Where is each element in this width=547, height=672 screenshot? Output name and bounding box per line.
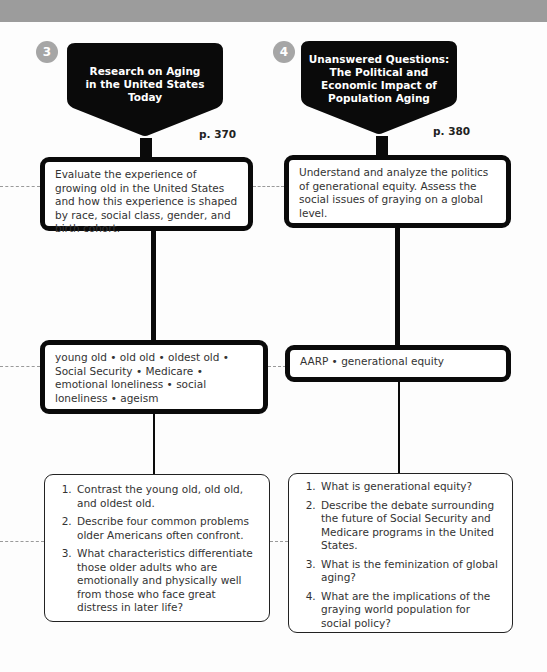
question-item: What characteristics differentiate those…	[75, 547, 259, 615]
dashed-connector	[0, 541, 44, 542]
dashed-connector	[0, 186, 40, 187]
review-questions-box: Contrast the young old, old old, and old…	[44, 474, 270, 622]
section-title-banner: Unanswered Questions: The Political and …	[301, 41, 457, 135]
connector-line	[398, 381, 400, 474]
review-questions-list: What is generational equity? Describe th…	[297, 480, 502, 630]
review-questions-list: Contrast the young old, old old, and old…	[53, 483, 259, 615]
key-terms-box: AARP • generational equity	[285, 345, 511, 382]
objective-text: Understand and analyze the politics of g…	[299, 166, 488, 219]
banner-title-line: The Political and	[301, 66, 457, 79]
question-item: What is generational equity?	[319, 480, 502, 494]
banner-title-line: Unanswered Questions:	[301, 53, 457, 66]
dashed-connector	[0, 366, 40, 367]
connector-line	[151, 230, 156, 342]
learning-objective-box: Evaluate the experience of growing old i…	[40, 157, 253, 231]
header-band	[0, 0, 547, 22]
section-title-banner: Research on Aging in the United States T…	[67, 43, 223, 137]
banner-title-line: in the United States	[67, 78, 223, 91]
section-number-badge: 4	[273, 41, 295, 63]
review-questions-box: What is generational equity? Describe th…	[288, 473, 513, 633]
banner-title-line: Research on Aging	[67, 65, 223, 78]
page-reference: p. 370	[199, 128, 236, 140]
dashed-connector	[270, 541, 288, 542]
question-item: Contrast the young old, old old, and old…	[75, 483, 259, 510]
question-item: Describe the debate surrounding the futu…	[319, 499, 502, 553]
question-item: What are the implications of the graying…	[319, 590, 502, 631]
key-terms-text: young old • old old • oldest old • Socia…	[55, 351, 229, 404]
page-reference: p. 380	[433, 125, 470, 137]
connector-line	[153, 413, 155, 475]
dashed-connector	[253, 186, 284, 187]
question-item: Describe four common problems older Amer…	[75, 515, 259, 542]
learning-objective-box: Understand and analyze the politics of g…	[284, 155, 511, 228]
section-number-badge: 3	[36, 41, 58, 63]
objective-text: Evaluate the experience of growing old i…	[55, 168, 237, 234]
dashed-connector	[268, 366, 286, 367]
banner-title-line: Population Aging	[301, 92, 457, 105]
banner-title-line: Economic Impact of	[301, 79, 457, 92]
question-item: What is the feminization of global aging…	[319, 558, 502, 585]
key-terms-box: young old • old old • oldest old • Socia…	[40, 340, 268, 414]
banner-title-line: Today	[67, 91, 223, 104]
key-terms-text: AARP • generational equity	[300, 355, 444, 367]
connector-line	[395, 227, 400, 347]
